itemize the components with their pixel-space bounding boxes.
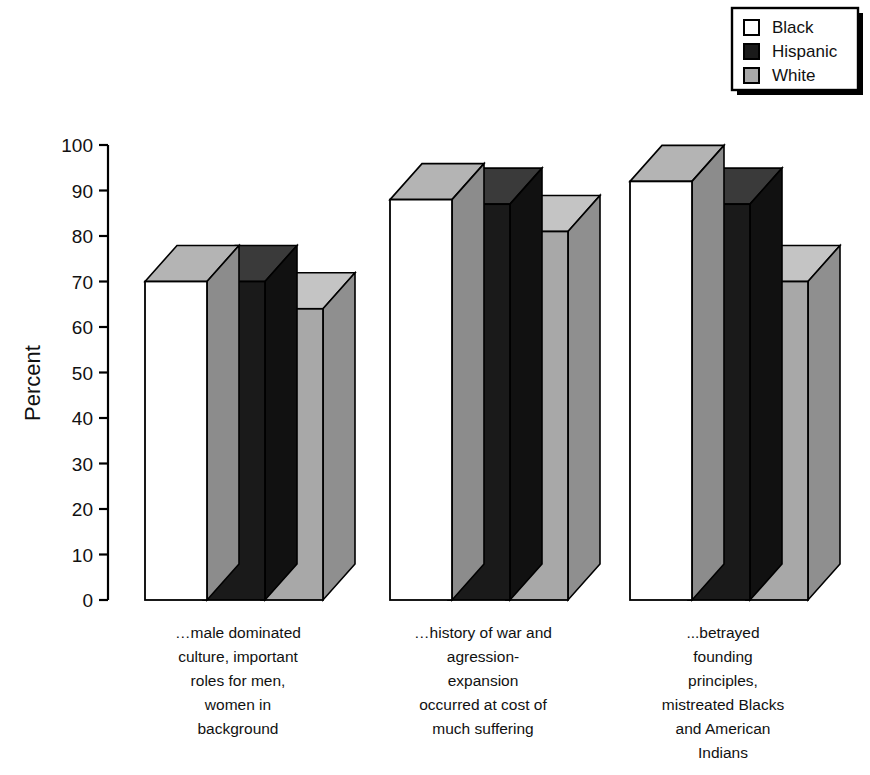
bar-black-group-1 [145,246,239,601]
bar-side-face [750,168,782,600]
y-axis-tick-label: 10 [72,545,93,566]
bar-black-group-2 [390,164,484,600]
legend-swatch-icon [744,68,759,83]
legend-label: Black [772,18,814,37]
category-label-line: ...betrayed [686,624,759,641]
category-label-line: …male dominated [175,624,301,641]
bar-front-face [390,200,452,600]
y-axis-tick-label: 0 [82,590,93,611]
y-axis-tick-label: 80 [72,226,93,247]
legend: BlackHispanicWhite [732,8,863,95]
legend-label: Hispanic [772,42,838,61]
bar-side-face [265,246,297,601]
chart-canvas: 0102030405060708090100 Percent …male dom… [0,0,870,775]
y-axis-title: Percent [20,345,45,421]
y-axis-tick-label: 50 [72,363,93,384]
category-label-line: background [197,720,278,737]
bar-side-face [692,145,724,600]
bar-front-face [145,282,207,601]
bar-front-face [630,181,692,600]
legend-label: White [772,66,815,85]
category-label-line: much suffering [432,720,533,737]
category-label-line: mistreated Blacks [662,696,785,713]
y-axis-tick-label: 100 [61,135,93,156]
y-axis-tick-label: 40 [72,408,93,429]
category-label-line: and American [676,720,771,737]
category-label-line: founding [693,648,752,665]
bar-side-face [452,164,484,600]
legend-swatch-icon [744,44,759,59]
category-label-line: expansion [448,672,519,689]
category-label-line: occurred at cost of [419,696,547,713]
y-axis-tick-label: 30 [72,454,93,475]
y-axis-tick-label: 60 [72,317,93,338]
category-label-line: roles for men, [191,672,286,689]
y-axis-tick-label: 20 [72,499,93,520]
bar-black-group-3 [630,145,724,600]
category-label-line: agression- [447,648,519,665]
bar-side-face [568,195,600,600]
category-label-line: Indians [698,744,748,761]
category-label-line: …history of war and [414,624,552,641]
bar-side-face [808,246,840,601]
legend-item-black[interactable]: Black [744,18,814,37]
bar-side-face [510,168,542,600]
legend-item-white[interactable]: White [744,66,815,85]
category-label-line: principles, [688,672,758,689]
bar-side-face [207,246,239,601]
legend-swatch-icon [744,20,759,35]
category-label-line: women in [204,696,271,713]
bar-chart-3d: 0102030405060708090100 Percent …male dom… [0,0,870,775]
bar-side-face [323,273,355,600]
y-axis-tick-label: 70 [72,272,93,293]
category-label-line: culture, important [178,648,298,665]
y-axis-tick-label: 90 [72,181,93,202]
legend-item-hispanic[interactable]: Hispanic [744,42,838,61]
